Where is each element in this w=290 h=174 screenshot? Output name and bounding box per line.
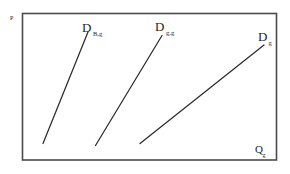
curve-2-label-subscript: g,g (166, 29, 175, 36)
curve-2-label: D (155, 19, 164, 34)
diagram-canvas: P Q g D B,g D g,g D g (0, 0, 290, 174)
curve-1-label: D (82, 20, 91, 35)
economics-demand-diagram: P Q g D B,g D g,g D g (0, 0, 290, 174)
x-axis-label-subscript: g (263, 152, 266, 158)
curve-1-label-subscript: B,g (93, 30, 103, 37)
diagram-background (0, 0, 290, 174)
curve-3-label: D (258, 29, 267, 44)
